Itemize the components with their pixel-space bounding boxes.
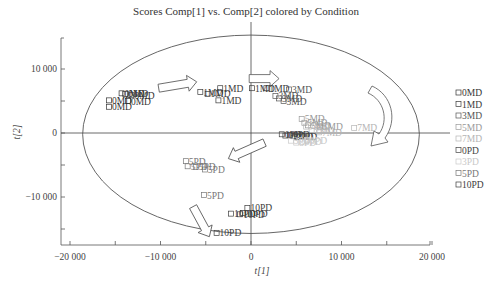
legend: 0MD1MD3MD5MD7MD0PD3PD5PD10PD: [456, 88, 484, 190]
x-tick-label: 10 000: [328, 252, 354, 262]
legend-marker-icon: [456, 182, 461, 187]
point-label: 10PD: [246, 209, 268, 219]
point-label: 0MD: [112, 102, 132, 112]
trend-arrow-icon: [225, 135, 268, 166]
legend-label: 0MD: [462, 88, 482, 98]
legend-label: 5PD: [462, 169, 479, 179]
point-label: 0MD: [131, 97, 151, 107]
y-tick-label: 0: [52, 128, 57, 138]
trend-arrows: [157, 71, 392, 241]
data-point: 10PD: [214, 228, 241, 238]
legend-item: 5MD: [456, 123, 482, 133]
data-points: 0MD0MD0MD0MD0MD0MD1MD1MD1MD1MD1MD1MD3MD3…: [106, 84, 377, 239]
legend-marker-icon: [456, 159, 461, 164]
score-scatter-plot: −20 000−10 000010 00020 000−10 000010 00…: [0, 0, 492, 289]
legend-item: 10PD: [456, 180, 484, 190]
square-marker-icon: [183, 159, 188, 164]
y-axis-label: t[2]: [12, 124, 22, 139]
point-label: 3PD: [310, 136, 327, 146]
x-tick-label: −10 000: [145, 252, 177, 262]
square-marker-icon: [352, 125, 357, 130]
legend-label: 7MD: [462, 134, 482, 144]
legend-item: 3MD: [456, 111, 482, 121]
legend-item: 0PD: [456, 146, 479, 156]
legend-label: 1MD: [462, 100, 482, 110]
data-point: 0MD: [106, 102, 132, 112]
x-tick-label: −20 000: [54, 252, 86, 262]
data-point: 7MD: [352, 123, 378, 133]
x-tick-label: 20 000: [419, 252, 445, 262]
point-label: 3MD: [292, 85, 312, 95]
square-marker-icon: [249, 86, 254, 91]
trend-arrow-icon: [157, 74, 198, 96]
point-label: 5PD: [207, 191, 224, 201]
trend-arrow-icon: [368, 86, 392, 146]
legend-marker-icon: [456, 136, 461, 141]
point-label: 10PD: [220, 228, 242, 238]
square-marker-icon: [279, 132, 284, 137]
x-axis-label: t[1]: [255, 266, 270, 276]
legend-item: 0MD: [456, 88, 482, 98]
legend-label: 10PD: [462, 180, 484, 190]
data-point: 5PD: [201, 191, 224, 201]
legend-item: 1MD: [456, 100, 482, 110]
point-label: 1MD: [223, 84, 243, 94]
legend-item: 5PD: [456, 169, 479, 179]
legend-marker-icon: [456, 125, 461, 130]
legend-marker-icon: [456, 148, 461, 153]
square-marker-icon: [229, 211, 234, 216]
x-tick-label: 0: [249, 252, 254, 262]
legend-label: 3PD: [462, 157, 479, 167]
legend-item: 3PD: [456, 157, 479, 167]
legend-label: 0PD: [462, 146, 479, 156]
square-marker-icon: [106, 98, 111, 103]
square-marker-icon: [198, 90, 203, 95]
legend-marker-icon: [456, 90, 461, 95]
point-label: 7MD: [357, 123, 377, 133]
trend-arrow-icon: [186, 203, 216, 241]
legend-marker-icon: [456, 113, 461, 118]
point-label: 3MD: [287, 97, 307, 107]
y-tick-label: −10 000: [26, 192, 58, 202]
point-label: 5PD: [208, 165, 225, 175]
legend-marker-icon: [456, 171, 461, 176]
legend-label: 5MD: [462, 123, 482, 133]
point-label: 1MD: [221, 96, 241, 106]
legend-item: 7MD: [456, 134, 482, 144]
y-tick-label: 10 000: [31, 64, 57, 74]
square-marker-icon: [106, 104, 111, 109]
legend-label: 3MD: [462, 111, 482, 121]
legend-marker-icon: [456, 102, 461, 107]
square-marker-icon: [201, 193, 206, 198]
